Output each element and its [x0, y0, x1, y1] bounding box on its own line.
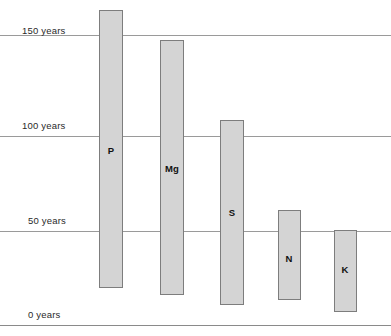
gridline-50: [0, 231, 391, 232]
gridline-100: [0, 136, 391, 137]
bar-label-p: P: [108, 145, 114, 156]
y-tick-label-150: 150 years: [22, 25, 66, 36]
bar-label-k: K: [342, 264, 349, 275]
plot-area: 150 years 100 years 50 years 0 years P M…: [0, 0, 391, 336]
bar-label-s: S: [229, 207, 235, 218]
chart-container: 150 years 100 years 50 years 0 years P M…: [0, 0, 391, 336]
y-tick-label-0: 0 years: [28, 309, 61, 320]
gridline-0: [0, 325, 391, 326]
y-tick-label-100: 100 years: [22, 120, 66, 131]
y-tick-label-50: 50 years: [28, 215, 66, 226]
bar-label-mg: Mg: [165, 163, 179, 174]
bar-label-n: N: [286, 253, 293, 264]
